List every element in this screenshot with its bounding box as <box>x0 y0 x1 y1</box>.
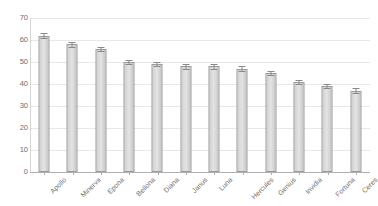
error-bar-cap-top <box>324 84 331 85</box>
bar-slot <box>200 18 228 172</box>
bar-slot <box>87 18 115 172</box>
y-axis-tick-label: 20 <box>2 124 28 132</box>
x-axis-tick-mark <box>356 172 357 175</box>
error-bar-cap-top <box>239 66 246 67</box>
x-axis-tick-label: Luna <box>218 176 234 192</box>
bar <box>124 62 135 172</box>
error-bar-cap-bottom <box>324 88 331 89</box>
error-bar-cap-top <box>154 62 161 63</box>
bar-slot <box>342 18 370 172</box>
bar <box>237 69 248 172</box>
y-axis-tick-label: 60 <box>2 36 28 44</box>
x-axis-tick-mark <box>129 172 130 175</box>
x-axis-tick-label: Janus <box>190 176 208 194</box>
x-axis-line <box>30 172 370 173</box>
y-axis-tick-label: 50 <box>2 58 28 66</box>
bar-slot <box>30 18 58 172</box>
error-bar-cap-bottom <box>182 69 189 70</box>
bar-slot <box>58 18 86 172</box>
x-axis-tick-label: Diana <box>162 176 180 194</box>
error-bar-cap-top <box>267 71 274 72</box>
bar-slot <box>228 18 256 172</box>
y-axis-tick-label: 0 <box>2 168 28 176</box>
x-axis-tick-label: Minerva <box>79 176 102 199</box>
x-axis-tick-labels: ApolloMinervaEponaBellonaDianaJanusLunaH… <box>30 176 370 206</box>
bar-series <box>30 18 370 172</box>
y-axis-tick-label: 10 <box>2 146 28 154</box>
x-axis-tick-mark <box>44 172 45 175</box>
bar-slot <box>143 18 171 172</box>
y-axis-tick-labels: 706050403020100 <box>0 18 28 172</box>
error-bar-cap-bottom <box>69 47 76 48</box>
error-bar-cap-bottom <box>267 75 274 76</box>
error-bar-cap-bottom <box>154 66 161 67</box>
error-bar-cap-bottom <box>211 69 218 70</box>
bar <box>265 73 276 172</box>
error-bar-cap-top <box>41 33 48 34</box>
x-axis-tick-mark <box>158 172 159 175</box>
x-axis-tick-mark <box>73 172 74 175</box>
y-axis-tick-label: 30 <box>2 102 28 110</box>
x-axis-tick-label: Hercules <box>250 176 274 200</box>
x-axis-tick-mark <box>214 172 215 175</box>
error-bar-cap-top <box>296 80 303 81</box>
bar <box>294 82 305 172</box>
x-axis-tick-label: Invidia <box>304 176 323 195</box>
error-bar-cap-bottom <box>97 51 104 52</box>
bar-slot <box>172 18 200 172</box>
error-bar-cap-bottom <box>296 84 303 85</box>
bar-slot <box>313 18 341 172</box>
bar <box>209 66 220 172</box>
error-bar-cap-top <box>352 88 359 89</box>
bar <box>67 44 78 172</box>
bar <box>350 91 361 172</box>
x-axis-tick-label: Fortuna <box>334 176 356 198</box>
bar <box>180 66 191 172</box>
x-axis-tick-label: Bellona <box>135 176 156 197</box>
x-axis-tick-mark <box>328 172 329 175</box>
x-axis-tick-mark <box>101 172 102 175</box>
error-bar-cap-top <box>97 47 104 48</box>
bar-slot <box>257 18 285 172</box>
bar-slot <box>115 18 143 172</box>
error-bar-cap-top <box>211 64 218 65</box>
x-axis-tick-mark <box>243 172 244 175</box>
error-bar-cap-top <box>126 60 133 61</box>
bar-slot <box>285 18 313 172</box>
x-axis-tick-label: Genius <box>276 176 297 197</box>
error-bar-cap-bottom <box>352 93 359 94</box>
x-axis-tick-mark <box>299 172 300 175</box>
x-axis-tick-mark <box>271 172 272 175</box>
x-axis-tick-label: Epona <box>106 176 125 195</box>
error-bar-cap-bottom <box>126 64 133 65</box>
error-bar-cap-bottom <box>41 38 48 39</box>
bar <box>322 86 333 172</box>
bar <box>39 36 50 172</box>
error-bar-cap-top <box>182 64 189 65</box>
bar <box>95 49 106 172</box>
x-axis-tick-mark <box>186 172 187 175</box>
y-axis-tick-label: 40 <box>2 80 28 88</box>
bar <box>152 64 163 172</box>
error-bar-cap-bottom <box>239 71 246 72</box>
y-axis-tick-label: 70 <box>2 14 28 22</box>
error-bar-cap-top <box>69 42 76 43</box>
x-axis-tick-label: Apollo <box>49 176 68 195</box>
x-axis-tick-label: Ceres <box>360 176 378 194</box>
